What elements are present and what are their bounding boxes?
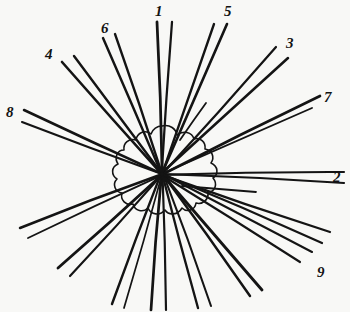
ray-label-5: 5 — [224, 4, 232, 19]
rays-group — [20, 22, 344, 310]
ray-label-3: 3 — [286, 36, 294, 51]
ray-label-9: 9 — [317, 265, 325, 280]
ray-label-4: 4 — [45, 47, 53, 62]
ray-label-1: 1 — [155, 4, 163, 19]
ray-label-6: 6 — [101, 21, 109, 36]
figure-root: 123456789 — [0, 0, 350, 312]
ray-label-7: 7 — [324, 90, 332, 105]
center-point — [160, 172, 164, 176]
ray-label-8: 8 — [6, 105, 14, 120]
ray-label-2: 2 — [333, 170, 341, 185]
